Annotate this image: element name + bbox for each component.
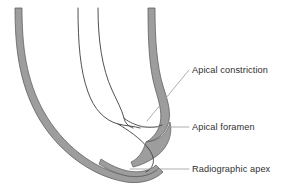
label-radiographic-apex: Radiographic apex: [192, 164, 270, 175]
outer-root-surface-group: [15, 8, 171, 183]
tooth-root-drawing: [0, 0, 288, 190]
canal-wall-inner: [98, 8, 133, 128]
canal-wall-outer: [78, 8, 140, 128]
outer-root-right-band: [146, 8, 170, 142]
label-apical-foramen: Apical foramen: [192, 122, 255, 133]
label-apical-constriction: Apical constriction: [192, 65, 268, 76]
apical-anatomy-figure: Apical constriction Apical foramen Radio…: [0, 0, 288, 190]
